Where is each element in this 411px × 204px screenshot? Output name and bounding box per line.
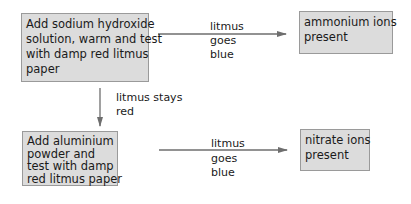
step2-line: test with damp [27,160,113,173]
edge-label-line: blue [211,166,245,181]
edge-label-line: litmus stays [116,91,182,105]
edge-label-line: blue [210,48,244,62]
result2-line: nitrate ions [305,133,365,148]
step2-line: red litmus paper [27,173,113,186]
step1-line: solution, warm and test [26,32,144,47]
step2-line: Add aluminium [27,135,113,148]
edge-label-step2-to-result2: litmus goes blue [211,137,245,181]
edge-label-line: red [116,105,182,119]
result1-box: ammonium ions present [299,11,393,54]
result2-line: present [305,148,365,163]
result1-line: ammonium ions [304,15,388,30]
result1-line: present [304,30,388,45]
edge-label-step1-to-step2: litmus stays red [116,91,182,119]
step1-line: paper [26,62,144,77]
edge-label-line: goes [211,152,245,167]
step1-line: with damp red litmus [26,47,144,62]
edge-label-step1-to-result1: litmus goes blue [210,20,244,62]
edge-label-line: goes [210,34,244,48]
step1-box: Add sodium hydroxide solution, warm and … [21,13,149,82]
edge-label-line: litmus [210,20,244,34]
edge-label-line: litmus [211,137,245,152]
step1-line: Add sodium hydroxide [26,17,144,32]
result2-box: nitrate ions present [300,129,370,171]
step2-box: Add aluminium powder and test with damp … [22,131,118,186]
